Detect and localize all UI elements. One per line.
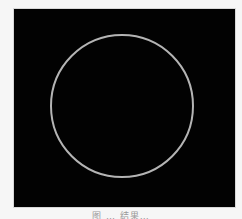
figure-caption: 图 … 结果… (0, 211, 242, 219)
circle-figure (14, 9, 235, 207)
circle-outline (51, 35, 193, 177)
document-page: 图 … 结果… (0, 0, 242, 219)
figure-panel (14, 9, 235, 207)
